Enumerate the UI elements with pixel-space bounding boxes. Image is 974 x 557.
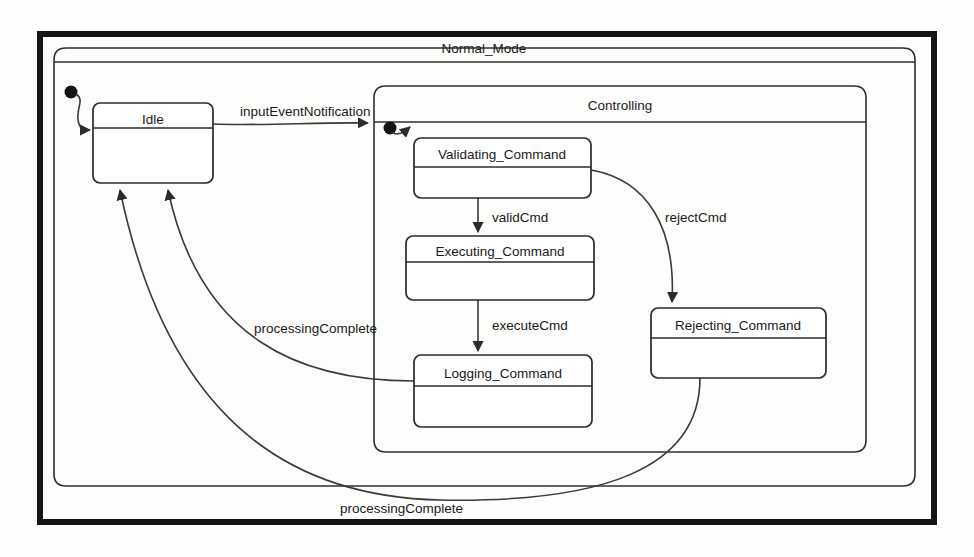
transition-label-validCmd: validCmd xyxy=(492,210,548,225)
transition-label-executeCmd: executeCmd xyxy=(492,318,568,333)
region-label-normal-mode: Normal_Mode xyxy=(442,41,527,56)
initial-state-normal-mode[interactable] xyxy=(65,86,91,131)
region-label-controlling: Controlling xyxy=(588,98,653,113)
transition-inputEventNotification[interactable] xyxy=(213,123,368,125)
transition-label-processingComplete-rejecting: processingComplete xyxy=(340,501,463,516)
state-diagram-canvas: Normal_Mode Controlling Idle Validating_… xyxy=(0,0,974,557)
transition-label-inputEventNotification: inputEventNotification xyxy=(240,104,371,119)
initial-state-controlling[interactable] xyxy=(384,122,411,135)
state-label-validating-command: Validating_Command xyxy=(438,147,566,162)
transition-rejectCmd[interactable] xyxy=(591,170,672,302)
state-label-rejecting-command: Rejecting_Command xyxy=(675,318,801,333)
state-label-idle: Idle xyxy=(142,112,164,127)
state-label-executing-command: Executing_Command xyxy=(435,244,564,259)
transition-processingComplete-logging[interactable] xyxy=(168,190,414,381)
state-label-logging-command: Logging_Command xyxy=(444,366,562,381)
transition-label-rejectCmd: rejectCmd xyxy=(665,210,727,225)
transition-label-processingComplete-logging: processingComplete xyxy=(254,321,377,336)
